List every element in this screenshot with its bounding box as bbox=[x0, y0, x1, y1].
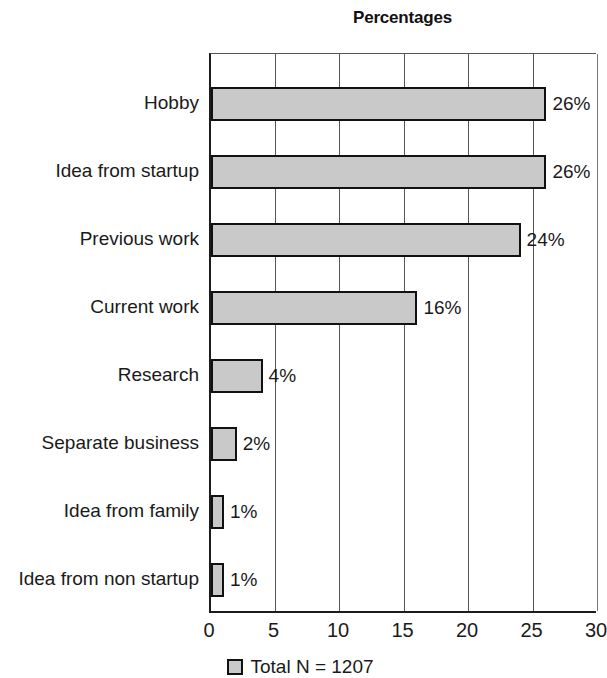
bar-row: 2% bbox=[211, 427, 598, 461]
bar-row: 26% bbox=[211, 155, 598, 189]
category-label: Separate business bbox=[0, 426, 199, 460]
category-label: Idea from non startup bbox=[0, 562, 199, 596]
bar-row: 24% bbox=[211, 223, 598, 257]
category-label: Previous work bbox=[0, 222, 199, 256]
bar-row: 26% bbox=[211, 87, 598, 121]
bar bbox=[211, 563, 224, 597]
x-tick-label-20: 20 bbox=[456, 619, 478, 642]
x-tick-label-5: 5 bbox=[268, 619, 279, 642]
plot-area: 26%26%24%16%4%2%1%1% bbox=[209, 53, 596, 613]
bar-row: 1% bbox=[211, 495, 598, 529]
category-label: Idea from family bbox=[0, 494, 199, 528]
bar bbox=[211, 155, 546, 189]
category-label: Hobby bbox=[0, 86, 199, 120]
category-label: Research bbox=[0, 358, 199, 392]
bar-row: 16% bbox=[211, 291, 598, 325]
bar-row: 1% bbox=[211, 563, 598, 597]
x-tick-label-0: 0 bbox=[203, 619, 214, 642]
category-label: Idea from startup bbox=[0, 154, 199, 188]
bar bbox=[211, 427, 237, 461]
bar bbox=[211, 291, 417, 325]
bar-value-label: 16% bbox=[417, 291, 461, 325]
x-tick-label-10: 10 bbox=[327, 619, 349, 642]
bar-value-label: 26% bbox=[546, 155, 590, 189]
x-tick-label-15: 15 bbox=[391, 619, 413, 642]
category-label: Current work bbox=[0, 290, 199, 324]
bar-value-label: 26% bbox=[546, 87, 590, 121]
legend-label: Total N = 1207 bbox=[250, 656, 373, 678]
x-tick-label-30: 30 bbox=[585, 619, 607, 642]
bar-value-label: 24% bbox=[521, 223, 565, 257]
bar-row: 4% bbox=[211, 359, 598, 393]
bar-value-label: 1% bbox=[224, 563, 257, 597]
bar-value-label: 2% bbox=[237, 427, 270, 461]
bar bbox=[211, 359, 263, 393]
bar bbox=[211, 223, 521, 257]
x-tick-label-25: 25 bbox=[520, 619, 542, 642]
bar bbox=[211, 87, 546, 121]
bar bbox=[211, 495, 224, 529]
chart-title: Percentages bbox=[209, 8, 596, 28]
legend-swatch-icon bbox=[227, 659, 243, 675]
chart-legend: Total N = 1207 bbox=[0, 656, 601, 678]
bar-value-label: 1% bbox=[224, 495, 257, 529]
bar-value-label: 4% bbox=[263, 359, 296, 393]
